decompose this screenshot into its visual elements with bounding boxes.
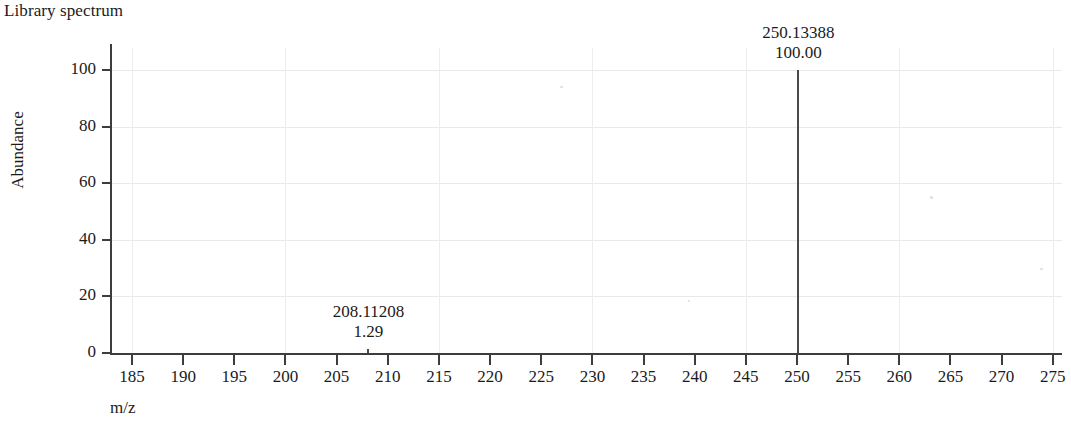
x-axis-tick-label: 250 [784, 367, 810, 387]
y-axis-tick-label: 40 [50, 229, 96, 249]
scan-speck [930, 196, 933, 199]
x-axis-tick [1052, 355, 1054, 365]
gridline-vertical [132, 48, 133, 353]
peak-intensity-value: 1.29 [333, 322, 405, 342]
gridline-vertical [899, 48, 900, 353]
scan-speck [560, 86, 563, 88]
mass-spectrum-figure: Library spectrum 020406080100 1851901952… [0, 0, 1071, 426]
gridline-vertical [439, 48, 440, 353]
scan-speck [1040, 268, 1043, 270]
x-axis-tick-label: 225 [528, 367, 554, 387]
gridline-horizontal [110, 127, 1062, 128]
x-axis-tick [489, 355, 491, 365]
x-axis-tick-label: 260 [887, 367, 913, 387]
x-axis-tick [131, 355, 133, 365]
y-axis-line [110, 44, 112, 355]
y-axis-tick-label: 20 [50, 285, 96, 305]
x-axis-tick [694, 355, 696, 365]
y-axis-tick-label: 100 [50, 59, 96, 79]
x-axis-tick-label: 230 [580, 367, 606, 387]
x-axis-title: m/z [110, 398, 136, 418]
gridline-horizontal [110, 183, 1062, 184]
x-axis-tick [284, 355, 286, 365]
x-axis-tick-label: 270 [989, 367, 1015, 387]
x-axis-tick-label: 210 [375, 367, 401, 387]
x-axis-tick [387, 355, 389, 365]
y-axis-tick-label: 0 [50, 342, 96, 362]
x-axis-tick-label: 235 [631, 367, 657, 387]
plot-area [110, 48, 1062, 353]
y-axis-tick-label: 80 [50, 116, 96, 136]
x-axis-tick-label: 185 [119, 367, 145, 387]
x-axis-tick-label: 215 [426, 367, 452, 387]
y-axis-tick [102, 352, 112, 354]
x-axis-tick [847, 355, 849, 365]
gridline-vertical [1053, 48, 1054, 353]
x-axis-tick [1001, 355, 1003, 365]
x-axis-tick-label: 265 [938, 367, 964, 387]
y-axis-tick-label: 60 [50, 172, 96, 192]
peak-label: 208.112081.29 [333, 302, 405, 342]
y-axis-tick [102, 69, 112, 71]
gridline-vertical [746, 48, 747, 353]
x-axis-tick [336, 355, 338, 365]
x-axis-tick [438, 355, 440, 365]
gridline-horizontal [110, 70, 1062, 71]
y-axis-title: Abundance [8, 70, 28, 230]
x-axis-tick-label: 220 [477, 367, 503, 387]
scan-speck [688, 300, 690, 302]
x-axis-tick-label: 240 [682, 367, 708, 387]
x-axis-tick-label: 195 [222, 367, 248, 387]
y-axis-tick [102, 126, 112, 128]
spectrum-peak [797, 70, 799, 353]
x-axis-tick [182, 355, 184, 365]
x-axis-tick [796, 355, 798, 365]
y-axis-tick [102, 295, 112, 297]
gridline-horizontal [110, 240, 1062, 241]
x-axis-tick [540, 355, 542, 365]
x-axis-tick-label: 190 [170, 367, 196, 387]
y-axis-tick-labels: 020406080100 [44, 0, 96, 426]
x-axis-tick [591, 355, 593, 365]
y-axis-tick [102, 182, 112, 184]
x-axis-tick-label: 200 [273, 367, 299, 387]
peak-mz-value: 208.11208 [333, 302, 405, 322]
x-axis-tick [233, 355, 235, 365]
x-axis-tick-label: 245 [733, 367, 759, 387]
y-axis-tick [102, 239, 112, 241]
x-axis-tick-label: 275 [1040, 367, 1066, 387]
x-axis-tick [745, 355, 747, 365]
x-axis-tick [949, 355, 951, 365]
x-axis-tick-label: 205 [324, 367, 350, 387]
gridline-vertical [592, 48, 593, 353]
x-axis-tick [643, 355, 645, 365]
x-axis-line [110, 353, 1062, 355]
peak-label: 250.13388100.00 [762, 23, 834, 63]
peak-mz-value: 250.13388 [762, 23, 834, 43]
gridline-horizontal [110, 296, 1062, 297]
peak-intensity-value: 100.00 [762, 43, 834, 63]
gridline-vertical [285, 48, 286, 353]
x-axis-tick [898, 355, 900, 365]
x-axis-tick-label: 255 [835, 367, 861, 387]
